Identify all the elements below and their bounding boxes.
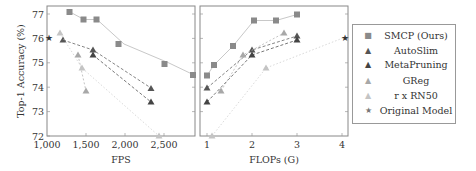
right-x-axis-label: FLOPs (G) bbox=[249, 154, 299, 165]
left-y-ticks bbox=[47, 14, 348, 136]
left-series-rxrn50-markers bbox=[57, 30, 163, 139]
right-plot-frame bbox=[200, 6, 348, 136]
square-marker-icon: ■ bbox=[361, 29, 375, 43]
legend-label: r x RN50 bbox=[377, 89, 455, 103]
y-tick-labels: 77 76 75 74 73 72 bbox=[32, 9, 44, 142]
left-series-autoslim-markers bbox=[60, 37, 155, 92]
left-series-rxrn50-line bbox=[60, 33, 159, 136]
legend-item-rxrn50: ▲ r x RN50 bbox=[353, 89, 457, 103]
legend-item-smcp: ■ SMCP (Ours) bbox=[353, 29, 457, 43]
triangle-marker-icon: ▲ bbox=[361, 44, 375, 58]
legend-label: GReg bbox=[377, 74, 455, 88]
y-tick-label: 75 bbox=[32, 57, 44, 68]
star-marker-icon: ★ bbox=[361, 104, 375, 118]
right-series-smcp-markers bbox=[204, 12, 300, 79]
y-tick-label: 74 bbox=[32, 82, 44, 93]
legend-item-autoslim: ▲ AutoSlim bbox=[353, 44, 457, 58]
left-plot-frame bbox=[47, 6, 195, 136]
left-x-axis-label: FPS bbox=[111, 154, 131, 165]
legend-item-greg: ▲ GReg bbox=[353, 74, 457, 88]
x-tick-label: 2,500 bbox=[150, 139, 177, 150]
right-series-autoslim-line bbox=[207, 36, 297, 88]
right-series-smcp-line bbox=[207, 15, 297, 76]
left-series-smcp-line bbox=[70, 12, 194, 75]
right-series-greg-markers bbox=[218, 30, 288, 94]
left-series-smcp-markers bbox=[67, 9, 197, 78]
x-tick-label: 2,000 bbox=[111, 139, 138, 150]
triangle-marker-icon: ▲ bbox=[361, 74, 375, 88]
y-tick-label: 76 bbox=[32, 33, 44, 44]
y-tick-label: 73 bbox=[32, 106, 44, 117]
x-tick-label: 1,000 bbox=[33, 139, 60, 150]
x-tick-label: 1 bbox=[204, 139, 210, 150]
legend-label: Original Model bbox=[377, 104, 455, 118]
left-series-autoslim-line bbox=[63, 40, 151, 88]
left-x-tick-labels: 1,000 1,500 2,000 2,500 bbox=[33, 139, 177, 150]
y-tick-label: 77 bbox=[32, 9, 44, 20]
x-tick-label: 1,500 bbox=[72, 139, 99, 150]
legend-item-original-model: ★ Original Model bbox=[353, 104, 457, 118]
left-series-metapruning-line bbox=[93, 55, 151, 102]
left-original-model-marker: ★ bbox=[45, 33, 53, 43]
right-original-model-marker: ★ bbox=[341, 33, 349, 43]
right-series-greg-line bbox=[221, 33, 284, 91]
triangle-marker-icon: ▲ bbox=[361, 58, 375, 72]
triangle-marker-icon: ▲ bbox=[361, 89, 375, 103]
x-tick-label: 4 bbox=[339, 139, 345, 150]
legend: ■ SMCP (Ours) ▲ AutoSlim ▲ MetaPruning ▲… bbox=[352, 24, 456, 124]
x-tick-label: 2 bbox=[249, 139, 255, 150]
right-x-tick-labels: 1 2 3 4 bbox=[204, 139, 345, 150]
y-axis-label: Top-1 Accuracy (%) bbox=[15, 24, 26, 118]
legend-label: AutoSlim bbox=[377, 44, 455, 58]
x-tick-label: 3 bbox=[294, 139, 300, 150]
legend-label: SMCP (Ours) bbox=[377, 29, 455, 43]
legend-label: MetaPruning bbox=[377, 58, 455, 72]
legend-item-metapruning: ▲ MetaPruning bbox=[353, 58, 457, 72]
left-series-greg-line bbox=[78, 55, 86, 91]
right-series-rxrn50-line bbox=[212, 38, 343, 136]
